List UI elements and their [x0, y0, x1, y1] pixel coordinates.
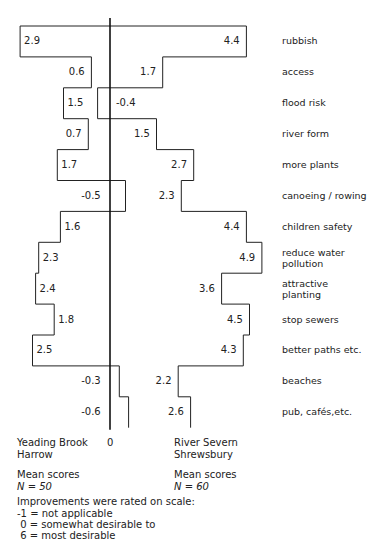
category-label: more plants: [282, 159, 339, 170]
category-label: beaches: [282, 375, 322, 386]
scale-item-somewhat: 0 = somewhat desirable to: [17, 519, 155, 530]
right-value-label: 2.2: [156, 375, 172, 386]
right-value-label: 4.4: [224, 35, 240, 46]
left-value-label: 2.3: [43, 252, 59, 263]
category-label: rubbish: [282, 35, 318, 46]
right-value-label: 3.6: [199, 283, 215, 294]
right-value-label: 4.9: [239, 252, 255, 263]
scale-item-most: 6 = most desirable: [17, 530, 115, 540]
right-mean-label: Mean scores: [174, 469, 237, 480]
left-value-label: 2.5: [37, 344, 53, 355]
left-value-label: -0.5: [81, 190, 101, 201]
left-value-label: 2.4: [40, 283, 56, 294]
left-value-label: 2.9: [24, 35, 40, 46]
category-label: children safety: [282, 221, 352, 232]
left-value-label: 0.7: [66, 128, 82, 139]
category-label: canoeing / rowing: [282, 190, 367, 201]
category-label: pub, cafés,etc.: [282, 406, 352, 417]
right-value-label: -0.4: [116, 97, 136, 108]
right-value-label: 1.5: [134, 128, 150, 139]
category-label: reduce water pollution: [282, 247, 345, 269]
zero-axis-label: 0: [107, 437, 113, 448]
scale-title: Improvements were rated on scale:: [17, 496, 195, 507]
right-value-label: 4.5: [227, 314, 243, 325]
right-site-name: River Severn: [174, 437, 238, 448]
category-label: better paths etc.: [282, 344, 361, 355]
category-label: attractive planting: [282, 278, 328, 300]
left-mean-label: Mean scores: [17, 469, 80, 480]
category-label: flood risk: [282, 97, 326, 108]
right-value-label: 4.3: [221, 344, 237, 355]
right-value-label: 4.4: [224, 221, 240, 232]
right-n-label: N = 60: [174, 481, 209, 492]
left-value-label: 1.7: [61, 159, 77, 170]
left-site-name: Yeading Brook: [17, 437, 88, 448]
category-label: access: [282, 66, 314, 77]
category-label: stop sewers: [282, 314, 339, 325]
right-value-label: 2.3: [159, 190, 175, 201]
left-value-label: 1.8: [58, 314, 74, 325]
chart-figure: 2.94.4rubbish0.61.7access1.5-0.4flood ri…: [0, 0, 384, 540]
left-site-place: Harrow: [17, 449, 53, 460]
left-n-label: N = 50: [17, 481, 52, 492]
right-site-place: Shrewsbury: [174, 449, 233, 460]
left-value-label: -0.3: [81, 375, 101, 386]
left-value-label: -0.6: [81, 406, 101, 417]
category-label: river form: [282, 128, 329, 139]
left-value-label: 1.5: [68, 97, 84, 108]
right-value-label: 2.7: [171, 159, 187, 170]
left-value-label: 0.6: [69, 66, 85, 77]
scale-item-not-applicable: -1 = not applicable: [17, 508, 113, 519]
right-value-label: 2.6: [168, 406, 184, 417]
right-value-label: 1.7: [140, 66, 156, 77]
left-value-label: 1.6: [64, 221, 80, 232]
